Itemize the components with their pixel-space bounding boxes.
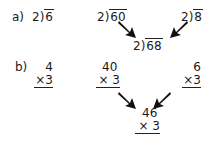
division-problem-2-into-68: 2)68 [133, 40, 163, 52]
dividend: 68 [145, 38, 162, 53]
multiplication-40-times-3: 40 × 3 [96, 61, 120, 88]
multiplier: × 3 [96, 74, 120, 88]
divisor: 2 [133, 39, 141, 53]
multiplier: ×3 [182, 74, 201, 88]
multiplier: × 3 [135, 120, 160, 134]
part-b-label: b) [15, 61, 27, 73]
multiplication-4-times-3: 4 ×3 [34, 61, 53, 88]
multiplication-6-times-3: 6 ×3 [182, 61, 201, 88]
multiplication-46-times-3: 46 × 3 [135, 107, 160, 134]
multiplier: ×3 [34, 74, 53, 88]
